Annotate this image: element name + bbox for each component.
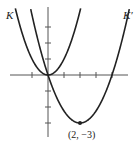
parabola-chart: K K′ (2, −3) — [0, 0, 139, 146]
label-k-prime: K′ — [122, 9, 133, 21]
curve-k-prime — [31, 9, 130, 123]
vertex-point — [78, 121, 82, 125]
vertex-label: (2, −3) — [68, 129, 95, 141]
label-k: K — [5, 9, 14, 21]
